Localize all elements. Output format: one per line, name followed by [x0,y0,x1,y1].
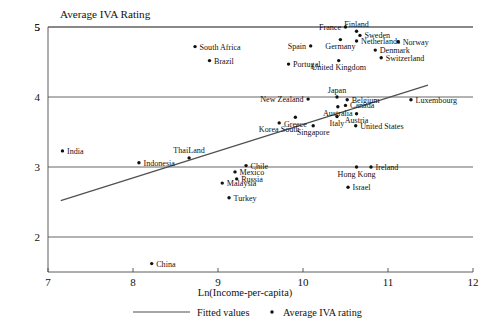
point-label-luxembourg: Luxembourg [415,96,457,105]
point-label-france: France [319,23,341,32]
point-label-norway: Norway [403,38,430,47]
x-axis-title: Ln(Income-per-capita) [198,287,292,299]
x-tick-label-10: 10 [298,276,310,288]
data-point-korea-south [278,121,281,124]
point-label-japan: Japan [328,86,346,95]
data-point-indonesia [137,161,140,164]
point-label-germany: Germany [325,42,356,51]
data-point-mexico [233,170,236,173]
point-label-turkey: Turkey [234,194,258,203]
data-point-portugal [287,62,290,65]
data-point-china [150,262,153,265]
x-tick-label-12: 12 [468,276,479,288]
data-point-australia [336,105,339,108]
legend: Fitted values Average IVA rating [133,307,362,318]
point-label-sweden: Sweden [364,31,390,40]
point-label-united-states: United States [360,122,403,131]
data-point-germany [339,38,342,41]
data-point-ireland [369,165,372,168]
scatter-plot: IndiaIndonesiaThaiLandChinaSouth AfricaB… [0,0,490,331]
x-tick-label-8: 8 [130,276,136,288]
legend-dot-swatch [270,310,273,313]
data-point-canada [344,104,347,107]
x-tick-label-11: 11 [383,276,394,288]
point-labels: IndiaIndonesiaThaiLandChinaSouth AfricaB… [67,20,457,269]
data-point-turkey [227,196,230,199]
data-point-israel [346,186,349,189]
data-point-denmark [374,48,377,51]
legend-label-average-iva-rating: Average IVA rating [283,307,362,318]
data-point-austria [355,112,358,115]
point-label-thailand: ThaiLand [173,146,204,155]
point-label-india: India [67,147,84,156]
data-point-japan [335,95,338,98]
y-tick-label-2: 2 [35,231,41,243]
data-point-belgium [346,98,349,101]
point-label-indonesia: Indonesia [143,159,175,168]
data-point-spain [309,44,312,47]
chart-title: Average IVA Rating [60,8,151,20]
chart-container: IndiaIndonesiaThaiLandChinaSouth AfricaB… [0,0,490,331]
data-point-singapore [312,124,315,127]
point-label-switzerland: Switzerland [386,54,425,63]
point-label-italy: Italy [330,119,346,128]
y-tick-label-3: 3 [35,161,41,173]
data-point-finland [355,30,358,33]
point-label-new-zealand: New Zealand [260,95,303,104]
point-label-china: China [156,260,176,269]
y-tick-label-4: 4 [35,91,41,103]
legend-label-fitted-values: Fitted values [197,307,249,318]
point-label-ireland: Ireland [376,163,399,172]
point-label-finland: Finland [344,20,369,29]
data-point-chile [244,164,247,167]
x-tick-label-7: 7 [45,276,51,288]
data-point-hong-kong [355,165,358,168]
data-point-india [61,149,64,152]
data-point-switzerland [380,56,383,59]
y-tick-label-5: 5 [35,21,41,33]
point-label-chile: Chile [251,162,269,171]
data-point-thailand [187,156,190,159]
point-label-south-africa: South Africa [200,43,242,52]
point-label-singapore: Singapore [297,128,330,137]
point-label-israel: Israel [353,183,372,192]
data-point-south-africa [193,45,196,48]
point-label-brazil: Brazil [214,57,235,66]
data-point-brazil [208,59,211,62]
data-point-united-kingdom [337,59,340,62]
data-point-greece [294,116,297,119]
point-label-canada: Canada [350,101,375,110]
point-label-united-kingdom: United Kingdom [311,63,366,72]
axes [48,27,473,272]
data-point-malaysia [221,181,224,184]
data-point-new-zealand [306,97,309,100]
data-point-luxembourg [409,98,412,101]
point-label-hong-kong: Hong Kong [338,170,376,179]
point-label-spain: Spain [288,42,306,51]
